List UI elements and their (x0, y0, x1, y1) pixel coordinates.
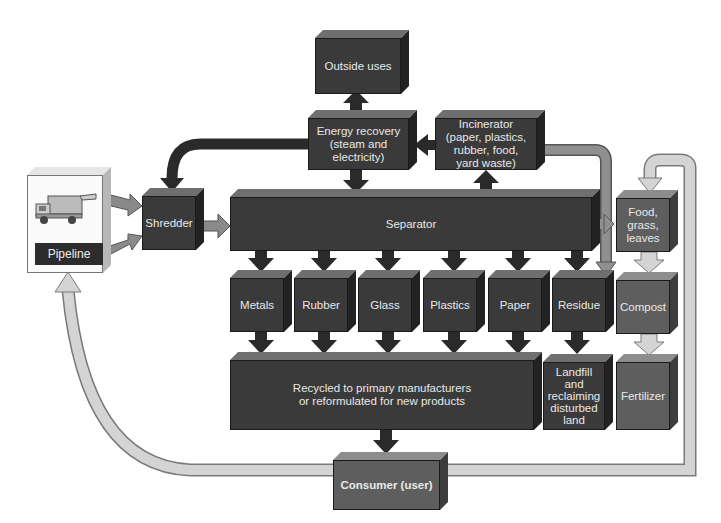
food-grass-leaves-node: Food, grass, leaves (616, 190, 678, 252)
metals-node: Metals (230, 270, 292, 332)
plastics-node: Plastics (423, 270, 485, 332)
energy-recovery-node: Energy recovery (steam and electricity) (308, 110, 417, 170)
compost-node: Compost (616, 272, 678, 334)
glass-label: Glass (370, 299, 399, 312)
outside-uses-node: Outside uses (315, 30, 409, 94)
paper-node: Paper (488, 270, 550, 332)
shredder-label: Shredder (145, 217, 192, 230)
landfill-label-1: Landfill (556, 366, 592, 378)
pipeline-label: Pipeline (35, 243, 103, 265)
food-label-3: leaves (626, 232, 659, 245)
pipeline-to-shredder-arrow-2 (107, 234, 142, 256)
incinerator-label-4: yard waste) (456, 157, 515, 170)
shredder-node: Shredder (142, 188, 204, 250)
glass-node: Glass (358, 270, 420, 332)
incinerator-label-3: rubber, food, (454, 144, 519, 157)
pipeline-node: Pipeline (27, 167, 111, 273)
recycled-node: Recycled to primary manufacturers or ref… (230, 352, 542, 430)
incinerator-node: Incinerator (paper, plastics, rubber, fo… (435, 110, 545, 170)
separator-node: Separator (230, 189, 600, 251)
outside-uses-label: Outside uses (324, 60, 391, 73)
landfill-label-3: reclaiming (548, 390, 600, 402)
food-label-1: Food, (628, 206, 657, 219)
landfill-node: Landfill and reclaiming disturbed land (543, 354, 613, 430)
fertilizer-label: Fertilizer (621, 390, 665, 403)
recycled-label-1: Recycled to primary manufacturers (293, 382, 471, 395)
incinerator-label-2: (paper, plastics, (446, 131, 527, 144)
separator-to-materials-arrows (248, 250, 590, 272)
energy-to-shredder-arrow (172, 144, 312, 178)
shredder-to-separator-arrow (200, 214, 230, 238)
energy-recovery-label-3: electricity) (333, 151, 385, 164)
recycled-label-2: or reformulated for new products (299, 395, 465, 408)
landfill-label-2: and (564, 378, 583, 390)
consumer-label: Consumer (user) (340, 479, 432, 492)
paper-label: Paper (500, 299, 531, 312)
plastics-label: Plastics (430, 299, 470, 312)
materials-to-recycled-arrows (248, 330, 590, 354)
landfill-label-4: disturbed (550, 402, 597, 414)
food-label-2: grass, (627, 219, 658, 232)
energy-recovery-label-2: (steam and (330, 138, 388, 151)
fertilizer-node: Fertilizer (616, 354, 678, 430)
compost-to-fertilizer-arrow (634, 334, 664, 355)
garbage-truck-icon (32, 190, 98, 226)
consumer-node: Consumer (user) (333, 452, 448, 510)
landfill-label-5: land (563, 414, 585, 426)
rubber-label: Rubber (302, 299, 340, 312)
incinerator-label-1: Incinerator (459, 118, 513, 131)
food-to-compost-arrow (634, 252, 664, 273)
compost-label: Compost (620, 301, 666, 314)
separator-label: Separator (386, 218, 437, 231)
energy-recovery-label-1: Energy recovery (317, 125, 401, 138)
residue-label: Residue (558, 299, 600, 312)
metals-label: Metals (240, 299, 274, 312)
rubber-node: Rubber (294, 270, 356, 332)
residue-node: Residue (552, 270, 614, 332)
pipeline-to-shredder-arrow-1 (107, 194, 142, 216)
recycled-to-consumer-arrow (373, 430, 399, 454)
